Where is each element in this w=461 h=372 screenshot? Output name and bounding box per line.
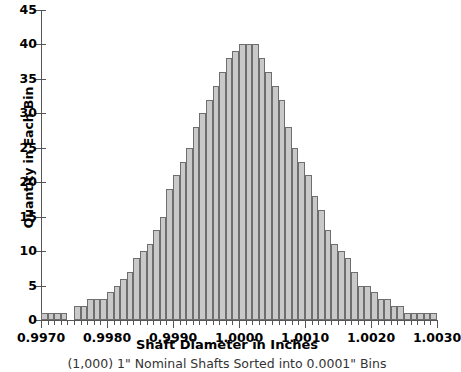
x-tick-mark-minor [206,320,207,325]
y-tick-label: 30 [20,105,37,121]
histogram-bar [239,44,246,320]
x-tick-mark-major [371,320,372,328]
histogram-bar [404,313,411,320]
histogram-bar [378,299,385,320]
x-tick-mark-minor [120,320,121,325]
histogram-bar [312,196,319,320]
histogram-bar [358,286,365,320]
x-tick-mark-minor [411,320,412,325]
y-tick-label: 15 [20,209,37,225]
histogram-bar [279,100,286,320]
x-tick-mark-minor [246,320,247,325]
x-tick-mark-minor [265,320,266,325]
x-tick-mark-minor [199,320,200,325]
x-tick-mark-major [437,320,438,328]
x-tick-mark-minor [338,320,339,325]
x-tick-mark-major [107,320,108,328]
histogram-bar [74,306,81,320]
x-tick-mark-major [173,320,174,328]
x-tick-mark-minor [114,320,115,325]
histogram-bar [252,44,259,320]
histogram-bar [430,313,437,320]
x-tick-mark-minor [384,320,385,325]
histogram-bar [61,313,68,320]
histogram-bar [397,306,404,320]
x-tick-mark-minor [358,320,359,325]
x-axis-title: Shaft Diameter in Inches [0,337,454,352]
histogram-bar [411,313,418,320]
histogram-bar [140,251,147,320]
y-tick-label: 45 [20,2,37,18]
x-tick-mark-minor [74,320,75,325]
histogram-bar [127,272,134,320]
x-tick-mark-minor [378,320,379,325]
figure-caption: (1,000) 1" Nominal Shafts Sorted into 0.… [0,356,454,372]
x-tick-mark-minor [54,320,55,325]
histogram-bar [120,279,127,320]
histogram-bar [54,313,61,320]
x-tick-mark-minor [345,320,346,325]
histogram-bar [259,58,266,320]
y-tick-label: 40 [20,36,37,52]
histogram-bar [180,162,187,320]
histogram-bar [371,292,378,320]
x-tick-mark-major [41,320,42,328]
histogram-bar [41,313,48,320]
x-tick-mark-minor [292,320,293,325]
histogram-bar [272,86,279,320]
histogram-bar [166,189,173,320]
x-tick-mark-minor [312,320,313,325]
x-tick-mark-minor [364,320,365,325]
histogram-bar [114,286,121,320]
x-tick-mark-minor [252,320,253,325]
x-tick-mark-minor [351,320,352,325]
x-tick-mark-minor [279,320,280,325]
histogram-bar [87,299,94,320]
x-tick-mark-minor [325,320,326,325]
x-tick-mark-minor [397,320,398,325]
x-tick-mark-minor [81,320,82,325]
x-tick-mark-minor [133,320,134,325]
x-tick-mark-minor [391,320,392,325]
histogram-bar [153,230,160,320]
x-tick-mark-minor [160,320,161,325]
x-tick-mark-minor [272,320,273,325]
histogram-bar [107,292,114,320]
histogram-bar [305,175,312,320]
x-tick-mark-minor [226,320,227,325]
x-tick-mark-minor [61,320,62,325]
y-tick-label: 0 [28,312,37,328]
histogram-bar [325,230,332,320]
x-tick-mark-minor [153,320,154,325]
histogram-bar [338,251,345,320]
histogram-bar [391,306,398,320]
x-tick-mark-minor [219,320,220,325]
histogram-bar [160,217,167,320]
x-tick-mark-minor [430,320,431,325]
x-tick-mark-minor [298,320,299,325]
histogram-bar [206,100,213,320]
x-tick-mark-minor [259,320,260,325]
histogram-bar [94,299,101,320]
x-tick-mark-minor [424,320,425,325]
x-tick-mark-minor [404,320,405,325]
x-tick-mark-minor [285,320,286,325]
histogram-bar [133,258,140,320]
x-tick-mark-minor [186,320,187,325]
x-tick-mark-minor [87,320,88,325]
x-tick-mark-minor [94,320,95,325]
histogram-bar [265,72,272,320]
histogram-bar [417,313,424,320]
histogram-bar [424,313,431,320]
histogram-bar [345,258,352,320]
x-tick-mark-minor [193,320,194,325]
histogram-bar [351,272,358,320]
x-tick-mark-minor [417,320,418,325]
x-tick-mark-minor [232,320,233,325]
x-tick-mark-minor [147,320,148,325]
histogram-bar [81,306,88,320]
x-tick-mark-minor [213,320,214,325]
x-tick-mark-minor [100,320,101,325]
x-tick-mark-minor [127,320,128,325]
